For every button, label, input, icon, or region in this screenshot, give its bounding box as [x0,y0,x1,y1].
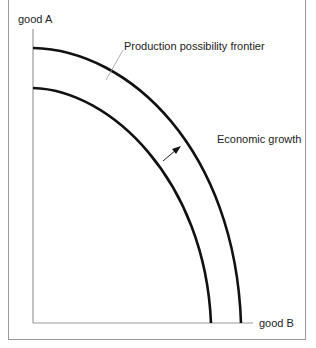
y-axis-label: good A [18,13,52,25]
ppf-label: Production possibility frontier [124,40,265,52]
x-axis-label: good B [259,317,294,329]
original-ppf-curve [33,88,211,323]
growth-arrow-shaft [163,150,176,161]
economic-growth-label: Economic growth [217,133,301,145]
ppf-diagram [0,0,316,348]
shifted-ppf-curve [33,48,241,323]
